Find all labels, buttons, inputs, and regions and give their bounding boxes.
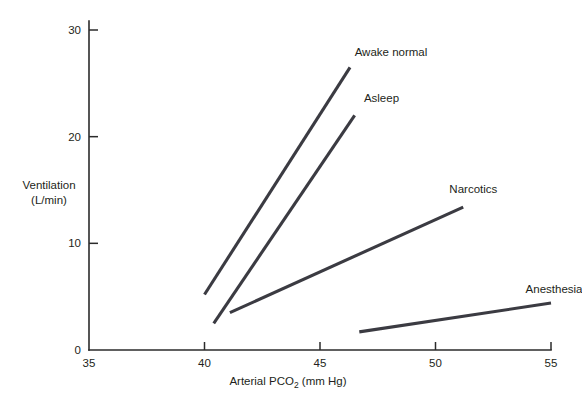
series-label-anesthesia: Anesthesia xyxy=(526,283,582,296)
y-tick-label: 0 xyxy=(51,344,81,357)
x-axis-title: Arterial PCO2 (mm Hg) xyxy=(229,374,346,389)
x-tick-label: 50 xyxy=(429,357,442,370)
series-label-awake-normal: Awake normal xyxy=(355,46,428,59)
y-tick-label: 30 xyxy=(51,24,81,37)
series-line-narcotics xyxy=(230,207,463,313)
y-tick-label: 20 xyxy=(51,130,81,143)
series-lines xyxy=(205,67,552,332)
x-tick-label: 40 xyxy=(198,357,211,370)
x-axis-title-prefix: Arterial PCO xyxy=(229,375,294,387)
y-axis-title-line1: Ventilation xyxy=(14,178,84,193)
x-tick-label: 55 xyxy=(545,357,558,370)
x-axis-ticks xyxy=(205,342,552,350)
x-axis-title-subscript: 2 xyxy=(294,380,299,390)
y-axis-ticks xyxy=(89,30,98,243)
y-tick-label: 10 xyxy=(51,237,81,250)
y-axis-title-line2: (L/min) xyxy=(14,193,84,208)
series-label-asleep: Asleep xyxy=(364,92,399,105)
y-axis-title: Ventilation (L/min) xyxy=(14,178,84,208)
x-tick-label: 35 xyxy=(83,357,96,370)
series-label-narcotics: Narcotics xyxy=(449,183,497,196)
series-line-anesthesia xyxy=(359,303,551,332)
x-axis-title-suffix: (mm Hg) xyxy=(299,375,347,387)
x-tick-label: 45 xyxy=(314,357,327,370)
series-line-asleep xyxy=(214,115,355,323)
series-line-awake-normal xyxy=(205,67,351,294)
